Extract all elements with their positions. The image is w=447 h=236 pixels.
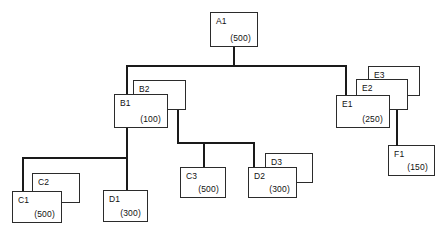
- node-e1-value: (250): [362, 114, 383, 124]
- node-d1-value: (300): [120, 208, 141, 218]
- node-c1-label: C1: [18, 195, 29, 205]
- edge-a1-stem: [233, 47, 235, 66]
- node-b1[interactable]: B1 (100): [114, 94, 168, 128]
- node-c2-label: C2: [38, 177, 49, 187]
- edge-b2-to-c3: [203, 142, 205, 168]
- node-b1-label: B1: [120, 98, 131, 108]
- edge-a1-to-b1: [126, 65, 128, 95]
- edge-b1-to-d1: [126, 157, 128, 191]
- edge-b1-stem: [126, 128, 128, 158]
- node-c3[interactable]: C3 (500): [180, 167, 226, 198]
- node-c3-label: C3: [186, 171, 197, 181]
- node-b1-value: (100): [140, 114, 161, 124]
- edge-b1-bus: [22, 157, 128, 159]
- node-c1-value: (500): [34, 209, 55, 219]
- node-e1[interactable]: E1 (250): [336, 95, 390, 128]
- node-d3-label: D3: [271, 157, 282, 167]
- node-c1[interactable]: C1 (500): [12, 191, 62, 223]
- edge-b2-to-d2: [253, 142, 255, 168]
- node-d1[interactable]: D1 (300): [103, 190, 148, 222]
- node-f1-label: F1: [394, 149, 404, 159]
- node-a1-label: A1: [216, 16, 227, 26]
- edge-b2-bus: [177, 142, 255, 144]
- edge-e1-to-f1: [396, 110, 398, 146]
- node-b2-label: B2: [139, 84, 150, 94]
- edge-b1-to-c1: [22, 157, 24, 192]
- node-e1-label: E1: [342, 99, 353, 109]
- node-a1-value: (500): [230, 33, 251, 43]
- node-a1[interactable]: A1 (500): [210, 12, 258, 47]
- node-d2-label: D2: [254, 171, 265, 181]
- node-e2-label: E2: [362, 83, 373, 93]
- node-d1-label: D1: [109, 194, 120, 204]
- node-c3-value: (500): [198, 184, 219, 194]
- node-f1-value: (150): [407, 162, 428, 172]
- node-f1[interactable]: F1 (150): [388, 145, 435, 176]
- edge-b2-stem: [177, 110, 179, 144]
- node-d2-value: (300): [269, 184, 290, 194]
- edge-a1-to-e1: [345, 65, 347, 96]
- tree-diagram-canvas: A1 (500) B2 B1 (100) E3 E2 E1 (250) F1 (…: [0, 0, 447, 236]
- node-d2[interactable]: D2 (300): [248, 167, 297, 198]
- edge-a1-bus: [126, 65, 346, 67]
